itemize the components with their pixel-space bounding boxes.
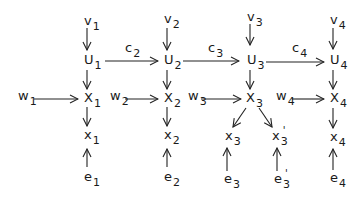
node-x2: x2	[164, 128, 180, 141]
node-v4: v4	[330, 13, 346, 26]
node-x4: x4	[330, 130, 346, 143]
edges-layer	[0, 0, 362, 199]
node-e3: e3	[224, 172, 240, 185]
node-x3-prime: x3'	[272, 129, 290, 142]
node-v2: v2	[164, 12, 180, 25]
node-e1: e1	[84, 170, 100, 183]
node-X4: X4	[330, 91, 347, 104]
node-w1: w1	[18, 89, 37, 102]
node-x3: x3	[225, 129, 241, 142]
node-X1: X1	[84, 91, 101, 104]
node-w2: w2	[110, 89, 129, 102]
node-e4: e4	[330, 171, 346, 184]
node-v3: v3	[247, 10, 263, 23]
node-e3-prime: e3'	[274, 172, 293, 185]
node-w3: w3	[188, 89, 207, 102]
edge-X3-x3prime	[259, 108, 272, 127]
node-e2: e2	[164, 170, 180, 183]
edge-label-c2: c2	[125, 41, 140, 54]
edge-label-c4: c4	[292, 41, 307, 54]
causal-diagram: v1 v2 v3 v4 c2 c3 c4 U1 U2 U3 U4 w1 X1 w…	[0, 0, 362, 199]
node-U4: U4	[330, 53, 348, 66]
node-U2: U2	[164, 53, 182, 66]
node-w4: w4	[276, 89, 295, 102]
node-x1: x1	[84, 128, 100, 141]
node-v1: v1	[84, 14, 100, 27]
edge-label-c3: c3	[208, 41, 223, 54]
node-X2: X2	[164, 91, 181, 104]
node-X3: X3	[246, 91, 263, 104]
node-U3: U3	[247, 53, 265, 66]
edge-X3-x3	[233, 108, 246, 127]
node-U1: U1	[84, 53, 102, 66]
